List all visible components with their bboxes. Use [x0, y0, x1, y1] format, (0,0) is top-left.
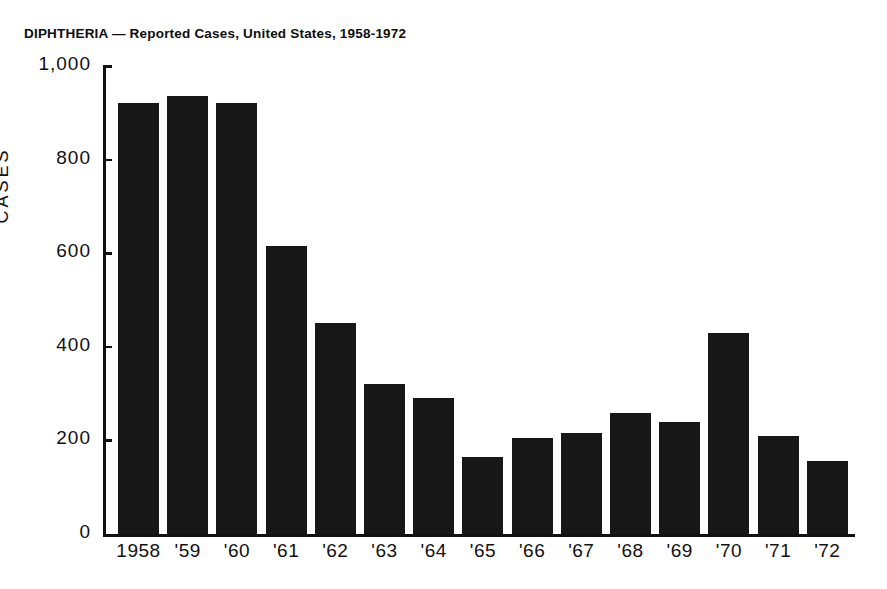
x-axis-line [103, 534, 855, 537]
bar [462, 457, 503, 534]
plot-area [103, 66, 855, 534]
bar [364, 384, 405, 534]
y-axis-title: CASES [0, 116, 13, 256]
y-tick-mark [103, 159, 112, 162]
bar [315, 323, 356, 534]
bar [118, 103, 159, 534]
bar [561, 433, 602, 534]
y-tick-label: 200 [11, 427, 91, 449]
y-tick-mark [103, 346, 112, 349]
bar [610, 413, 651, 534]
y-tick-mark [103, 439, 112, 442]
bar [807, 461, 848, 534]
y-tick-label: 1,000 [11, 53, 91, 75]
bar [708, 333, 749, 534]
diphtheria-bar-chart: DIPHTHERIA — Reported Cases, United Stat… [0, 0, 887, 589]
y-tick-label: 800 [11, 147, 91, 169]
bar [266, 246, 307, 534]
bar [758, 436, 799, 534]
y-tick-label: 0 [11, 521, 91, 543]
bar [413, 398, 454, 534]
bar [512, 438, 553, 534]
y-tick-label: 600 [11, 240, 91, 262]
y-tick-mark [103, 252, 112, 255]
x-tick-label: '72 [797, 540, 857, 562]
bar [659, 422, 700, 534]
y-tick-mark [103, 65, 112, 68]
chart-title: DIPHTHERIA — Reported Cases, United Stat… [24, 26, 406, 41]
y-tick-label: 400 [11, 334, 91, 356]
bar [167, 96, 208, 534]
bar [216, 103, 257, 534]
